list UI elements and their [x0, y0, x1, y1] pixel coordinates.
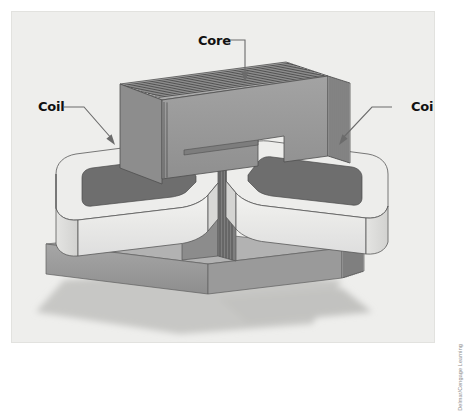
transformer-diagram	[12, 12, 434, 342]
label-coil-right: Coil	[411, 100, 435, 113]
label-coil-left: Coil	[38, 100, 65, 113]
attribution-text: Delmar/Cengage Learning	[457, 344, 463, 411]
coil-left-leader-arrow	[106, 134, 115, 145]
illustration-panel: Core Coil Coil	[11, 11, 435, 343]
label-core: Core	[198, 34, 231, 47]
coil-left-leader-line	[64, 107, 112, 139]
